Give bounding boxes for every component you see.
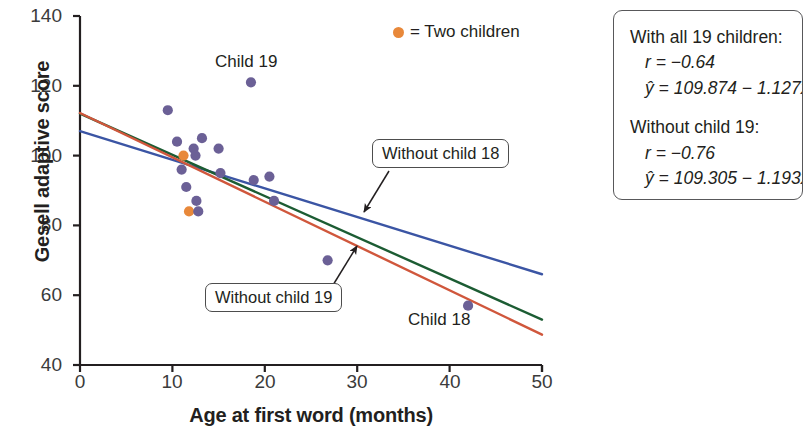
data-point [246,77,256,87]
callout-without-child-19[interactable]: Without child 19 [205,283,342,312]
data-point [184,206,194,216]
stats-group1-equation: ŷ = 109.874 − 1.127x [630,76,802,101]
annotation-child-18: Child 18 [408,310,470,330]
ytick-label-140: 140 [16,5,62,27]
y-axis-title: Gesell adaptive score [31,32,54,292]
x-axis-title: Age at first word (months) [80,404,542,427]
data-points [163,77,474,311]
data-point [193,206,203,216]
xtick-label-40: 40 [430,371,470,393]
data-point [264,171,274,181]
stats-spacer [630,101,802,115]
legend-two-children-dot [393,27,404,38]
annotation-child-19: Child 19 [215,52,277,72]
data-point [197,133,207,143]
stats-group1-r: r = −0.64 [630,50,802,75]
data-point [214,144,224,154]
data-point [269,196,279,206]
statistics-box: With all 19 children: r = −0.64 ŷ = 109.… [613,10,803,200]
data-point [190,151,200,161]
arrow-without-18 [364,171,389,212]
stats-group2-heading: Without child 19: [630,115,802,140]
callout-arrows [330,171,389,290]
data-point [323,255,333,265]
xtick-label-0: 0 [60,371,100,393]
legend: = Two children [393,22,520,42]
data-point [178,151,188,161]
ytick-label-40: 40 [16,354,62,376]
callout-without-child-18[interactable]: Without child 18 [372,139,509,168]
data-point [163,105,173,115]
xtick-label-20: 20 [245,371,285,393]
xtick-label-50: 50 [522,371,562,393]
stats-group1-heading: With all 19 children: [630,25,802,50]
data-point [181,182,191,192]
data-point [172,137,182,147]
xtick-label-30: 30 [337,371,377,393]
data-point [191,196,201,206]
data-point [177,164,187,174]
data-point [215,168,225,178]
axes [73,16,542,372]
data-point [249,175,259,185]
xtick-label-10: 10 [152,371,192,393]
legend-two-children-label: = Two children [410,22,520,42]
stats-group2-equation: ŷ = 109.305 − 1.193x [630,166,802,191]
stats-group2-r: r = −0.76 [630,141,802,166]
